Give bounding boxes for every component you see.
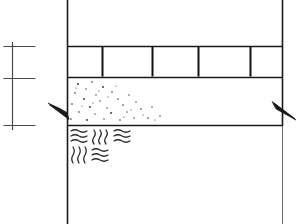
wall-outline-group bbox=[68, 0, 283, 224]
leader-lines-group bbox=[48, 102, 296, 121]
granular-fill-stipple bbox=[70, 81, 161, 121]
masonry-course-group bbox=[103, 47, 251, 77]
wall-section-drawing bbox=[0, 0, 296, 224]
earth-backfill-hatch bbox=[71, 130, 130, 163]
technical-drawing-canvas: Wall section with masonry course, granul… bbox=[0, 0, 296, 224]
leader-right-stem bbox=[274, 103, 296, 119]
dimension-line-group bbox=[4, 42, 36, 130]
